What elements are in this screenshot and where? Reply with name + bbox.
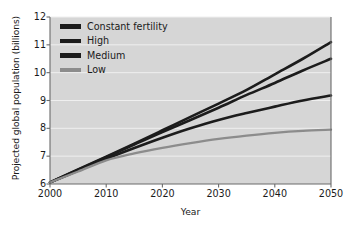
x-axis-tick-label: 2010 (86, 188, 126, 199)
legend-item-label: High (87, 35, 109, 46)
legend-item-label: Low (87, 64, 106, 75)
legend-item-label: Constant fertility (87, 21, 168, 32)
y-axis-title: Projected global population (billions) (8, 6, 24, 190)
x-axis-tick-label: 2020 (142, 188, 182, 199)
population-projection-chart: 1211109876 200020102020203020402050 Proj… (0, 0, 348, 232)
legend-item[interactable]: Medium (60, 48, 210, 63)
x-axis-tick-label: 2000 (30, 188, 70, 199)
x-axis-tick-label: 2050 (311, 188, 348, 199)
x-axis-tick-label: 2040 (255, 188, 295, 199)
legend-item[interactable]: Low (60, 63, 210, 78)
legend-item-label: Medium (87, 50, 125, 61)
legend-swatch-icon (60, 68, 81, 73)
legend-swatch-icon (60, 39, 81, 44)
legend-swatch-icon (60, 53, 81, 58)
x-axis-tick-label: 2030 (199, 188, 239, 199)
chart-legend: Constant fertilityHighMediumLow (60, 19, 210, 77)
legend-swatch-icon (60, 24, 81, 29)
legend-item[interactable]: High (60, 34, 210, 49)
x-axis-title: Year (50, 206, 331, 217)
legend-item[interactable]: Constant fertility (60, 19, 210, 34)
